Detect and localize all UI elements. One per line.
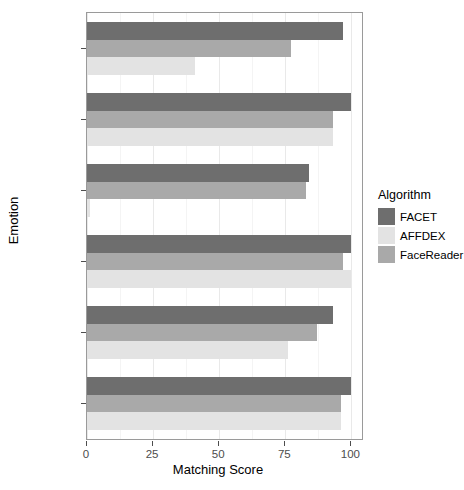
bar-sadness-facereader bbox=[87, 324, 317, 342]
bar-group-happiness bbox=[87, 226, 362, 297]
x-tick-mark bbox=[218, 441, 219, 446]
y-tick-mark bbox=[81, 119, 86, 120]
bar-anger-facereader bbox=[87, 40, 291, 58]
bar-fear-facet bbox=[87, 164, 309, 182]
chart-legend: Algorithm FACETAFFDEXFaceReader bbox=[378, 188, 464, 265]
legend-swatch-icon-facereader bbox=[378, 246, 395, 263]
bar-group-disgust bbox=[87, 84, 362, 155]
x-tick-mark bbox=[86, 441, 87, 446]
x-axis-title: Matching Score bbox=[86, 462, 350, 477]
y-axis-title-text: Emotion bbox=[7, 196, 22, 244]
x-tick-label-100: 100 bbox=[341, 448, 360, 460]
bar-surprise-affdex bbox=[87, 412, 341, 430]
bar-happiness-facet bbox=[87, 235, 351, 253]
legend-title: Algorithm bbox=[378, 188, 464, 202]
bar-sadness-affdex bbox=[87, 341, 288, 359]
bar-fear-facereader bbox=[87, 182, 306, 200]
x-tick-mark bbox=[152, 441, 153, 446]
y-tick-mark bbox=[81, 332, 86, 333]
legend-item-facet[interactable]: FACET bbox=[378, 208, 464, 225]
bar-anger-facet bbox=[87, 22, 343, 40]
bar-group-surprise bbox=[87, 368, 362, 439]
x-tick-label-0: 0 bbox=[83, 448, 89, 460]
bar-group-sadness bbox=[87, 297, 362, 368]
y-axis-title: Emotion bbox=[2, 0, 26, 440]
plot-panel bbox=[86, 12, 363, 440]
bar-disgust-facet bbox=[87, 93, 351, 111]
bar-happiness-affdex bbox=[87, 270, 351, 288]
x-tick-mark bbox=[350, 441, 351, 446]
x-tick-label-25: 25 bbox=[146, 448, 159, 460]
x-tick-label-50: 50 bbox=[212, 448, 225, 460]
x-tick-label-75: 75 bbox=[278, 448, 291, 460]
y-tick-mark bbox=[81, 48, 86, 49]
bar-surprise-facet bbox=[87, 377, 351, 395]
legend-label: AFFDEX bbox=[400, 230, 445, 242]
y-tick-mark bbox=[81, 403, 86, 404]
bar-sadness-facet bbox=[87, 306, 333, 324]
y-tick-mark bbox=[81, 190, 86, 191]
bar-disgust-facereader bbox=[87, 111, 333, 129]
bar-chart: Emotion Matching Score Algorithm FACETAF… bbox=[0, 0, 464, 490]
bar-surprise-facereader bbox=[87, 395, 341, 413]
bar-group-anger bbox=[87, 13, 362, 84]
bar-group-fear bbox=[87, 155, 362, 226]
legend-swatch-icon-facet bbox=[378, 208, 395, 225]
legend-swatch-icon-affdex bbox=[378, 227, 395, 244]
bar-fear-affdex bbox=[87, 199, 90, 217]
x-tick-mark bbox=[284, 441, 285, 446]
legend-item-facereader[interactable]: FaceReader bbox=[378, 246, 464, 263]
bar-happiness-facereader bbox=[87, 253, 343, 271]
legend-label: FaceReader bbox=[400, 249, 463, 261]
legend-item-affdex[interactable]: AFFDEX bbox=[378, 227, 464, 244]
legend-label: FACET bbox=[400, 211, 437, 223]
bar-anger-affdex bbox=[87, 57, 195, 75]
legend-items: FACETAFFDEXFaceReader bbox=[378, 208, 464, 263]
y-tick-mark bbox=[81, 261, 86, 262]
bar-disgust-affdex bbox=[87, 128, 333, 146]
